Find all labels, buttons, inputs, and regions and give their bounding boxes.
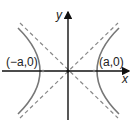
vertex-left-dot	[42, 70, 45, 73]
hyperbola-diagram: y x (−a,0) (a,0)	[0, 0, 138, 127]
vertex-left-label: (−a,0)	[6, 55, 38, 69]
vertex-right-label: (a,0)	[99, 55, 124, 69]
x-axis-label: x	[121, 72, 129, 86]
vertex-right-dot	[93, 70, 96, 73]
origin-dot	[66, 69, 69, 72]
y-axis-label: y	[55, 8, 63, 22]
